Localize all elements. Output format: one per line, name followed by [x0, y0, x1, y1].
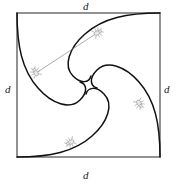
- bug-right-icon: [133, 97, 147, 111]
- pursuit-curve-from-bottom-left: [17, 88, 109, 157]
- side-label-top: d: [83, 1, 89, 12]
- figure-canvas: [0, 0, 176, 186]
- side-label-left: d: [5, 84, 11, 95]
- pursuit-curve-from-bottom-right: [91, 65, 160, 157]
- bounding-square: [17, 13, 160, 157]
- bug-markers: [29, 26, 147, 150]
- pursuit-curve-from-top-right: [68, 13, 160, 82]
- sightline: [36, 33, 97, 73]
- pursuit-curve-figure: d d d d: [0, 0, 176, 186]
- pursuit-curve-from-top-left: [17, 13, 86, 105]
- side-label-right: d: [164, 84, 170, 95]
- side-label-bottom: d: [83, 170, 89, 181]
